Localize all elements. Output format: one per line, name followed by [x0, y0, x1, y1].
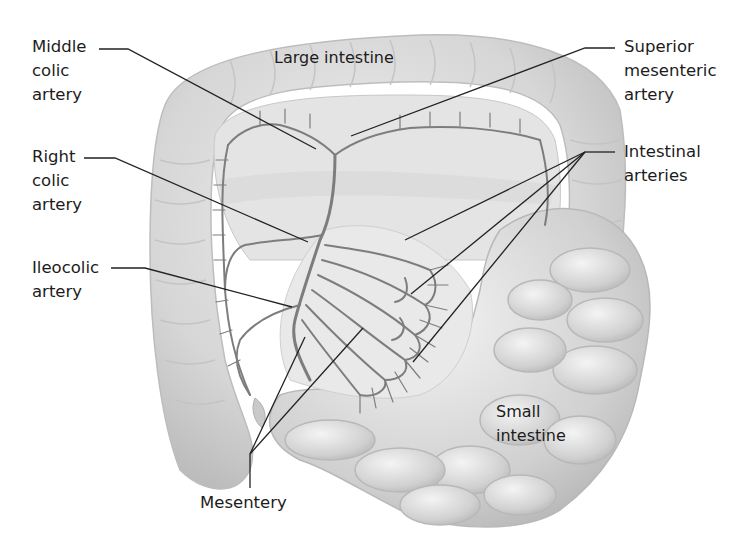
label-mesentery: Mesentery	[200, 491, 287, 515]
intestine-illustration	[0, 0, 730, 543]
label-superior-mesenteric-artery: Superior mesenteric artery	[624, 35, 717, 107]
label-ileocolic-artery: Ileocolic artery	[32, 256, 99, 304]
label-right-colic-artery: Right colic artery	[32, 145, 82, 217]
appendix-shape	[253, 398, 265, 428]
label-intestinal-arteries: Intestinal arteries	[624, 140, 701, 188]
label-large-intestine: Large intestine	[274, 46, 394, 70]
label-small-intestine: Small intestine	[496, 400, 566, 448]
label-middle-colic-artery: Middle colic artery	[32, 35, 87, 107]
